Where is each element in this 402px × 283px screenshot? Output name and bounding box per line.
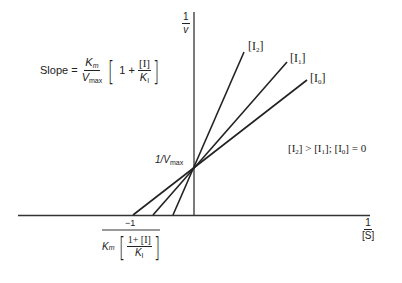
line-label-i0: [I0] xyxy=(310,72,326,86)
line-i0 xyxy=(133,80,307,215)
x-intercept-numerator: −1 xyxy=(125,219,135,228)
y-intercept-label: 1/Vmax xyxy=(155,155,183,166)
km-over-vmax: Km Vmax xyxy=(82,57,103,84)
inhibitor-condition: [I2] > [I1]; [I0] = 0 xyxy=(288,143,366,156)
slope-equation: Slope = Km Vmax [ 1 + [I] KI ] xyxy=(40,57,161,84)
y-axis-label: 1 v xyxy=(182,12,190,35)
line-i2 xyxy=(173,52,244,215)
line-label-i1: [I1] xyxy=(290,52,306,66)
x-intercept-denominator: Km [ 1+ [I] KI ] xyxy=(102,234,162,260)
x-axis-label: 1 [S] xyxy=(362,218,374,241)
i-over-ki: [I] KI xyxy=(138,58,151,84)
line-i1 xyxy=(153,62,287,215)
line-label-i2: [I2] xyxy=(248,40,264,54)
